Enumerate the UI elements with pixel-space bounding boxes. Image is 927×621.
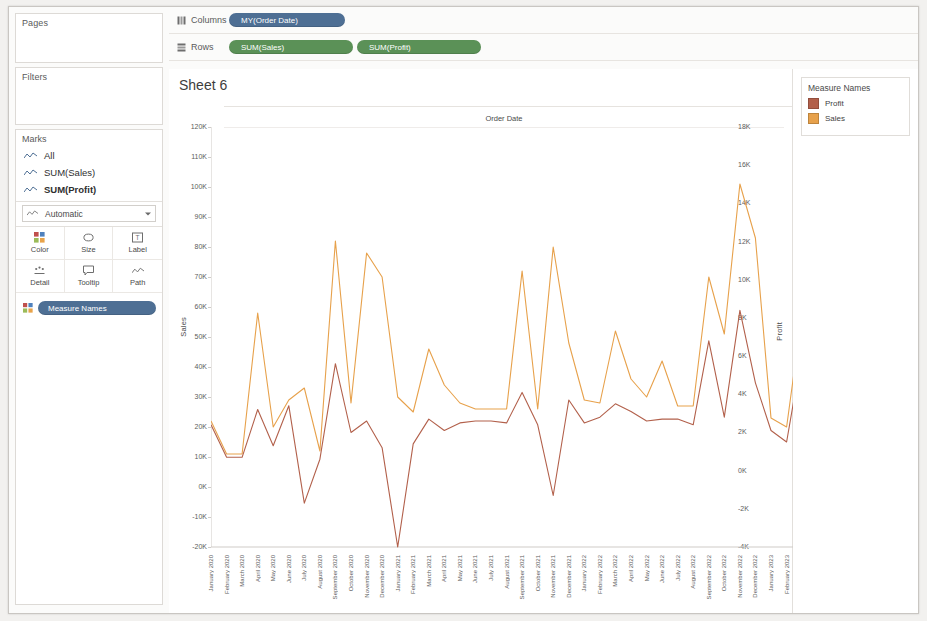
chevron-down-icon: [145, 212, 151, 215]
tooltip-button[interactable]: Tooltip: [65, 260, 114, 293]
x-tick-label: April 2021: [441, 555, 447, 582]
pill-sum-profit[interactable]: SUM(Profit): [357, 40, 481, 54]
left-tick-label: 70K: [169, 273, 207, 280]
left-tick-label: 20K: [169, 423, 207, 430]
left-tick-label: 40K: [169, 363, 207, 370]
x-tick-label: February 2023: [784, 555, 790, 594]
detail-button-label: Detail: [30, 278, 49, 287]
x-tick-label: May 2021: [457, 555, 463, 581]
x-tick-label: November 2020: [364, 555, 370, 598]
left-tick-label: 30K: [169, 393, 207, 400]
path-button[interactable]: Path: [113, 260, 162, 293]
x-tick-label: January 2020: [208, 555, 214, 591]
tooltip-icon: [83, 265, 94, 276]
x-tick-label: October 2020: [348, 555, 354, 591]
x-tick-label: November 2022: [737, 555, 743, 598]
x-tick-label: May 2020: [270, 555, 276, 581]
x-tick-label: March 2021: [426, 555, 432, 587]
pill-order-date[interactable]: MY(Order Date): [229, 13, 345, 27]
x-tick-label: October 2021: [535, 555, 541, 591]
x-tick-label: September 2022: [706, 555, 712, 599]
pages-label: Pages: [16, 14, 162, 30]
left-tick-label: 0K: [169, 483, 207, 490]
legend-title: Measure Names: [808, 83, 903, 93]
legend-swatch-sales: [808, 113, 819, 124]
legend-panel: Measure Names Profit Sales: [793, 69, 918, 613]
x-tick-label: April 2022: [628, 555, 634, 582]
label-button-label: Label: [128, 245, 146, 254]
size-button-label: Size: [81, 245, 96, 254]
mark-type-dropdown[interactable]: Automatic: [22, 205, 156, 222]
x-tick-label: November 2021: [550, 555, 556, 598]
x-tick-label: March 2020: [239, 555, 245, 587]
x-tick-label: June 2022: [659, 555, 665, 583]
color-button[interactable]: Color: [16, 227, 65, 260]
x-tick-label: August 2021: [504, 555, 510, 589]
x-tick-label: August 2022: [690, 555, 696, 589]
rows-label-group: Rows: [177, 42, 229, 52]
marks-divider: [16, 201, 162, 202]
x-tick-label: January 2023: [768, 555, 774, 591]
pages-shelf[interactable]: Pages: [15, 13, 163, 63]
x-tick-label: May 2022: [644, 555, 650, 581]
x-tick-label: July 2020: [301, 555, 307, 581]
line-chart-icon: [24, 152, 37, 160]
x-tick-label: February 2021: [410, 555, 416, 594]
tooltip-button-label: Tooltip: [78, 278, 100, 287]
x-tick-label: August 2020: [317, 555, 323, 589]
color-button-label: Color: [31, 245, 49, 254]
x-tick-label: October 2022: [721, 555, 727, 591]
legend-swatch-profit: [808, 98, 819, 109]
page-title: Sheet 6: [169, 69, 792, 93]
size-button[interactable]: Size: [65, 227, 114, 260]
left-tick-label: 60K: [169, 303, 207, 310]
marks-tab-sum-sales[interactable]: SUM(Sales): [16, 164, 162, 181]
size-icon: [83, 232, 94, 243]
columns-icon: [177, 16, 186, 25]
marks-tab-sum-profit[interactable]: SUM(Profit): [16, 181, 162, 198]
left-tick-label: 100K: [169, 183, 207, 190]
x-tick-label: February 2020: [224, 555, 230, 594]
svg-text:T: T: [136, 234, 140, 241]
x-tick-label: December 2020: [379, 555, 385, 598]
left-tick-label: -10K: [169, 513, 207, 520]
left-tick-label: 10K: [169, 453, 207, 460]
marks-button-grid: Color Size T Label: [16, 226, 162, 293]
mark-type-value: Automatic: [45, 209, 83, 219]
rows-icon: [177, 43, 186, 52]
legend-item-profit[interactable]: Profit: [808, 98, 903, 109]
marks-card: Marks All SUM(Sales) SUM(Profit): [15, 129, 163, 605]
x-tick-label: September 2021: [519, 555, 525, 599]
left-tick-label: 80K: [169, 243, 207, 250]
x-tick-label: July 2021: [488, 555, 494, 581]
rows-label: Rows: [191, 42, 214, 52]
marks-tab-sum-sales-label: SUM(Sales): [44, 167, 95, 178]
label-button[interactable]: T Label: [113, 227, 162, 260]
marks-label: Marks: [16, 130, 162, 147]
legend-label-sales: Sales: [825, 114, 845, 123]
left-panel: Pages Filters Marks All SUM(Sales): [9, 7, 170, 613]
left-tick-label: -20K: [169, 543, 207, 550]
filters-shelf[interactable]: Filters: [15, 67, 163, 125]
plot-area: Sales Profit 120K110K100K90K80K70K60K50K…: [169, 127, 792, 613]
columns-label: Columns: [191, 15, 227, 25]
x-tick-label: June 2020: [286, 555, 292, 583]
x-tick-label: September 2020: [332, 555, 338, 599]
legend-item-sales[interactable]: Sales: [808, 113, 903, 124]
pill-sum-sales[interactable]: SUM(Sales): [229, 40, 353, 54]
title-divider: [224, 106, 792, 107]
marks-tab-all-label: All: [44, 150, 55, 161]
rows-shelf[interactable]: Rows SUM(Sales) SUM(Profit): [169, 34, 918, 61]
detail-button[interactable]: Detail: [16, 260, 65, 293]
left-tick-label: 50K: [169, 333, 207, 340]
x-tick-label: March 2022: [612, 555, 618, 587]
marks-tab-all[interactable]: All: [16, 147, 162, 164]
measure-names-pill[interactable]: Measure Names: [38, 301, 156, 315]
line-chart-icon: [24, 169, 37, 177]
filters-label: Filters: [16, 68, 162, 84]
x-tick-label: June 2021: [472, 555, 478, 583]
left-tick-label: 90K: [169, 213, 207, 220]
shelf-bar: Columns MY(Order Date) Rows SUM(Sales) S…: [169, 7, 918, 70]
columns-shelf[interactable]: Columns MY(Order Date): [169, 7, 918, 34]
marks-color-encoding-row: Measure Names: [16, 293, 162, 323]
